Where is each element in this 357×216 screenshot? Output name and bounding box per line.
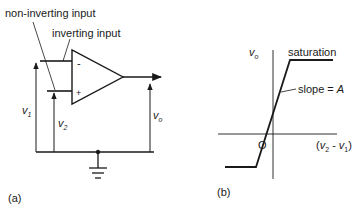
panel-a-labels: non-inverting input inverting input - + …: [5, 7, 163, 204]
panel-a-caption: (a): [8, 192, 21, 204]
x-axis-label: (v2 - v1): [316, 139, 352, 153]
inverting-input-label: inverting input: [52, 27, 121, 39]
origin-label: O: [258, 139, 267, 151]
slope-leader: [281, 89, 296, 92]
figure-canvas: non-inverting input inverting input - + …: [0, 0, 357, 216]
ground-icon: [89, 152, 107, 178]
slope-label: slope = A: [298, 83, 344, 95]
y-axis-label: vo: [249, 46, 259, 60]
plus-pin-label: +: [76, 88, 81, 98]
v1-label: v1: [22, 104, 32, 118]
vo-label: vo: [153, 109, 163, 123]
panel-b-caption: (b): [217, 186, 230, 198]
inverting-leader: [63, 39, 70, 61]
minus-pin-label: -: [77, 57, 81, 69]
panel-b-labels: vo saturation slope = A O (v2 - v1) (b): [217, 46, 352, 198]
v2-label: v2: [58, 117, 68, 131]
saturation-label: saturation: [288, 46, 336, 58]
non-inverting-input-label: non-inverting input: [5, 7, 96, 19]
panel-a-circuit: [33, 22, 161, 178]
panel-b-graph: [218, 50, 337, 179]
